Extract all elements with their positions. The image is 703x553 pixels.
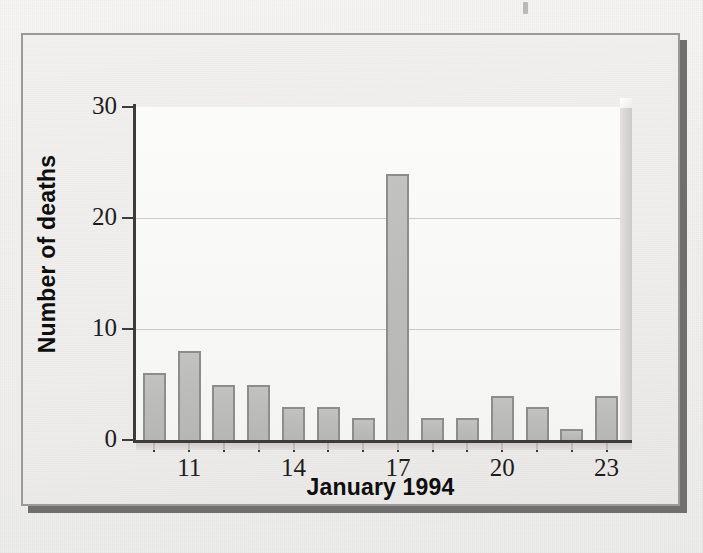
bar-13[interactable] bbox=[247, 385, 270, 441]
bar-20[interactable] bbox=[491, 396, 514, 440]
bar-17[interactable] bbox=[386, 174, 409, 440]
bar-11[interactable] bbox=[178, 351, 201, 440]
y-tick-0 bbox=[122, 439, 133, 441]
bar-21[interactable] bbox=[526, 407, 549, 440]
plot-area: 0102030 1114172023 bbox=[133, 104, 628, 443]
baseline-shading bbox=[136, 443, 632, 450]
bar-10[interactable] bbox=[143, 373, 166, 440]
bar-14[interactable] bbox=[282, 407, 305, 440]
gridline-10 bbox=[136, 329, 620, 330]
page-artifact-mark bbox=[523, 2, 528, 14]
bar-12[interactable] bbox=[212, 385, 235, 441]
bar-22[interactable] bbox=[560, 429, 583, 440]
y-axis-title: Number of deaths bbox=[34, 155, 61, 354]
plot-background bbox=[133, 107, 620, 440]
gridline-20 bbox=[136, 218, 620, 219]
y-tick-label-20: 20 bbox=[69, 204, 117, 229]
y-axis-line bbox=[133, 104, 136, 443]
x-tick-label-14: 14 bbox=[264, 455, 324, 480]
y-tick-label-30: 30 bbox=[69, 93, 117, 118]
x-tick-label-20: 20 bbox=[472, 455, 532, 480]
plot-right-face-3d bbox=[620, 107, 632, 440]
bar-18[interactable] bbox=[421, 418, 444, 440]
x-tick-label-11: 11 bbox=[159, 455, 219, 480]
x-tick-label-23: 23 bbox=[577, 455, 637, 480]
bar-19[interactable] bbox=[456, 418, 479, 440]
y-tick-10 bbox=[122, 328, 133, 330]
y-axis-title-wrapper: Number of deaths bbox=[51, 104, 52, 443]
plot-top-bevel-3d bbox=[620, 98, 632, 108]
y-tick-label-10: 10 bbox=[69, 315, 117, 340]
y-tick-label-0: 0 bbox=[69, 426, 117, 451]
bar-23[interactable] bbox=[595, 396, 618, 440]
x-tick-label-17: 17 bbox=[368, 455, 428, 480]
y-tick-20 bbox=[122, 217, 133, 219]
y-tick-30 bbox=[122, 106, 133, 108]
bar-15[interactable] bbox=[317, 407, 340, 440]
figure-box: Number of deaths January 1994 0102030 11… bbox=[21, 33, 680, 506]
bar-16[interactable] bbox=[352, 418, 375, 440]
